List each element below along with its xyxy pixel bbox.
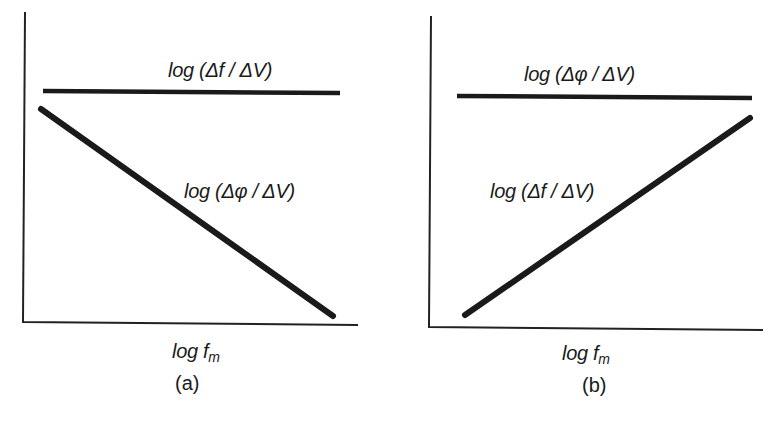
diagram-canvas [0, 0, 779, 421]
panel-b-constant-label: log (Δφ / ΔV) [524, 64, 635, 84]
panel-b-increasing-label: log (Δf / ΔV) [490, 181, 594, 201]
panel-a-constant-line [43, 91, 340, 93]
panel-b-constant-line [457, 96, 752, 98]
panel-a-constant-label: log (Δf / ΔV) [168, 60, 272, 80]
panel-a-decreasing-line [41, 109, 333, 316]
panel-a-x-axis-label: log fm [172, 341, 220, 364]
panel-b-increasing-line [465, 118, 750, 315]
panel-a-caption: (a) [175, 373, 199, 393]
panel-b-caption: (b) [582, 375, 606, 395]
panel-b-x-axis-label: log fm [562, 343, 610, 366]
panel-a-decreasing-label: log (Δφ / ΔV) [184, 181, 295, 201]
